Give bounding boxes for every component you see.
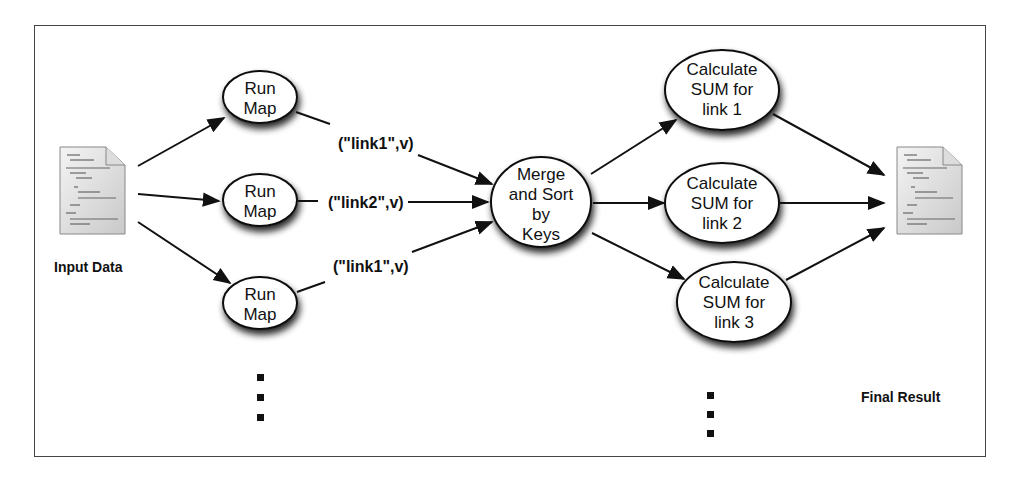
emit-label-2: ("link2",v) <box>328 194 404 211</box>
svg-text:Run: Run <box>244 182 275 201</box>
mapreduce-diagram: Input Data Run Map Run Map Run Map ("lin… <box>0 0 1013 482</box>
reduce-to-output-edges <box>773 114 884 280</box>
input-document-icon <box>60 147 125 234</box>
svg-text:Map: Map <box>243 305 276 324</box>
svg-text:Run: Run <box>244 79 275 98</box>
final-result-label: Final Result <box>861 389 941 405</box>
svg-text:Map: Map <box>243 202 276 221</box>
map-node-1: Run Map <box>223 71 297 123</box>
merge-sort-node: Merge and Sort by Keys <box>491 157 591 247</box>
svg-text:Map: Map <box>243 99 276 118</box>
svg-text:Calculate: Calculate <box>687 174 758 193</box>
reduce-node-link2: Calculate SUM for link 2 <box>665 163 779 243</box>
reduce-node-link3: Calculate SUM for link 3 <box>677 262 791 342</box>
svg-text:Merge: Merge <box>517 165 565 184</box>
svg-text:Keys: Keys <box>522 225 560 244</box>
svg-text:link 2: link 2 <box>702 214 742 233</box>
reduce-ellipsis-dots <box>707 392 714 437</box>
svg-text:Calculate: Calculate <box>687 60 758 79</box>
emit-label-3: ("link1",v) <box>333 258 409 275</box>
svg-text:link 3: link 3 <box>714 313 754 332</box>
svg-text:Calculate: Calculate <box>699 273 770 292</box>
svg-text:and Sort: and Sort <box>509 185 574 204</box>
svg-text:link 1: link 1 <box>702 100 742 119</box>
map-ellipsis-dots <box>257 374 264 421</box>
svg-text:SUM for: SUM for <box>703 293 766 312</box>
emit-label-1: ("link1",v) <box>338 135 414 152</box>
svg-text:Run: Run <box>244 285 275 304</box>
map-node-3: Run Map <box>223 277 297 329</box>
svg-text:by: by <box>532 205 550 224</box>
input-edges <box>138 118 230 283</box>
reduce-node-link1: Calculate SUM for link 1 <box>665 50 779 130</box>
input-data-label: Input Data <box>54 259 123 275</box>
svg-text:SUM for: SUM for <box>691 194 754 213</box>
svg-text:SUM for: SUM for <box>691 80 754 99</box>
output-document-icon <box>897 147 962 234</box>
map-node-2: Run Map <box>223 174 297 226</box>
